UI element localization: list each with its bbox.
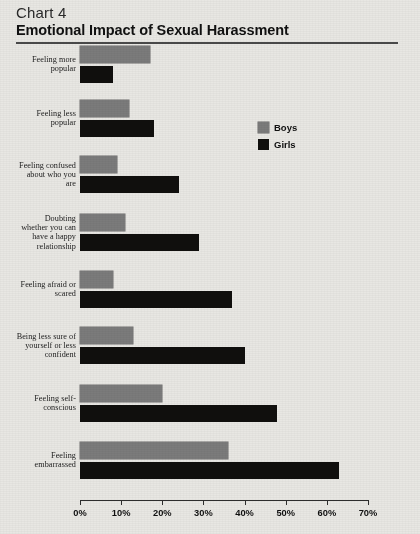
axis-tick-label: 30%	[194, 508, 213, 518]
bar-boys	[80, 327, 133, 344]
bar-girls	[80, 405, 277, 422]
bar-group: Feeling morepopular	[0, 46, 420, 83]
category-label: Feeling confusedabout who youare	[2, 161, 76, 189]
bar-group: Feeling lesspopular	[0, 100, 420, 137]
axis-tick-label: 0%	[73, 508, 86, 518]
bar-girls	[80, 291, 232, 308]
axis-tick	[245, 500, 246, 505]
axis-tick-label: 60%	[318, 508, 337, 518]
legend-label: Girls	[274, 139, 296, 150]
bar-group: Feeling confusedabout who youare	[0, 156, 420, 193]
bar-boys	[80, 271, 113, 288]
chart-plot-area: Feeling morepopularFeeling lesspopularFe…	[0, 44, 420, 504]
category-label: Feelingembarrassed	[2, 451, 76, 469]
category-label: Feeling self-conscious	[2, 394, 76, 412]
bar-girls	[80, 120, 154, 137]
axis-tick	[286, 500, 287, 505]
legend-swatch-girls	[258, 139, 269, 150]
axis-tick-label: 20%	[153, 508, 172, 518]
page-title: Emotional Impact of Sexual Harassment	[16, 22, 406, 39]
bar-boys	[80, 385, 162, 402]
x-axis-line	[80, 500, 368, 501]
legend-swatch-boys	[258, 122, 269, 133]
axis-tick-label: 70%	[359, 508, 378, 518]
bar-boys	[80, 100, 129, 117]
axis-tick-label: 50%	[276, 508, 295, 518]
bar-group: Doubtingwhether you canhave a happyrelat…	[0, 214, 420, 251]
legend-item-boys[interactable]: Boys	[258, 120, 297, 134]
axis-tick	[368, 500, 369, 505]
category-label: Feeling morepopular	[2, 55, 76, 73]
bar-group: Feelingembarrassed	[0, 442, 420, 479]
bar-boys	[80, 442, 228, 459]
bar-girls	[80, 347, 245, 364]
legend-label: Boys	[274, 122, 297, 133]
bar-group: Being less sure ofyourself or lessconfid…	[0, 327, 420, 364]
x-axis: 0%10%20%30%40%50%60%70%	[0, 500, 420, 534]
axis-tick	[80, 500, 81, 505]
bar-boys	[80, 214, 125, 231]
bar-boys	[80, 46, 150, 63]
bar-boys	[80, 156, 117, 173]
bar-group: Feeling self-conscious	[0, 385, 420, 422]
bar-girls	[80, 176, 179, 193]
category-label: Feeling afraid orscared	[2, 280, 76, 298]
axis-tick-label: 10%	[112, 508, 131, 518]
bar-girls	[80, 462, 339, 479]
chart-legend: BoysGirls	[258, 120, 297, 154]
axis-tick-label: 40%	[235, 508, 254, 518]
bar-group: Feeling afraid orscared	[0, 271, 420, 308]
axis-tick	[327, 500, 328, 505]
category-label: Doubtingwhether you canhave a happyrelat…	[2, 214, 76, 251]
bar-girls	[80, 234, 199, 251]
axis-tick	[162, 500, 163, 505]
chart-number-label: Chart 4	[16, 4, 406, 21]
axis-tick	[203, 500, 204, 505]
chart-header: Chart 4 Emotional Impact of Sexual Haras…	[16, 4, 406, 44]
category-label: Feeling lesspopular	[2, 109, 76, 127]
bar-girls	[80, 66, 113, 83]
legend-item-girls[interactable]: Girls	[258, 137, 297, 151]
axis-tick	[121, 500, 122, 505]
category-label: Being less sure ofyourself or lessconfid…	[2, 332, 76, 360]
